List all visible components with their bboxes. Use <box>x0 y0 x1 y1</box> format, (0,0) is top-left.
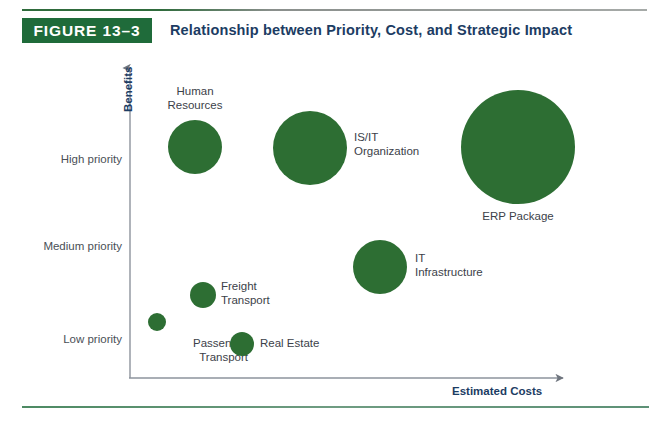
bubble-freight-transport[interactable] <box>190 282 216 308</box>
footer-divider-rule <box>22 406 649 408</box>
bubble-human-resources[interactable] <box>168 120 222 174</box>
bubble-erp-package[interactable] <box>461 90 575 204</box>
bubble-label-erp-package: ERP Package <box>458 210 578 224</box>
bubble-label-human-resources: Human Resources <box>141 85 249 112</box>
x-axis-title: Estimated Costs <box>452 385 542 397</box>
y-tick-low-priority: Low priority <box>24 333 122 345</box>
bubble-label-is-it-organization: IS/IT Organization <box>354 131 464 158</box>
y-tick-medium-priority: Medium priority <box>24 240 122 252</box>
chart-plot-area: Benefits Estimated Costs High priority M… <box>0 0 657 424</box>
y-tick-high-priority: High priority <box>24 153 122 165</box>
y-axis-title: Benefits <box>122 67 134 112</box>
bubble-passenger-transport[interactable] <box>148 313 166 331</box>
bubble-is-it-organization[interactable] <box>273 111 347 185</box>
bubble-label-real-estate: Real Estate <box>260 337 364 351</box>
figure-container: FIGURE 13–3 Relationship between Priorit… <box>0 0 657 424</box>
bubble-label-freight-transport: Freight Transport <box>221 280 325 307</box>
bubble-real-estate[interactable] <box>230 332 254 356</box>
bubble-label-it-infrastructure: IT Infrastructure <box>415 252 525 279</box>
bubble-it-infrastructure[interactable] <box>353 240 407 294</box>
